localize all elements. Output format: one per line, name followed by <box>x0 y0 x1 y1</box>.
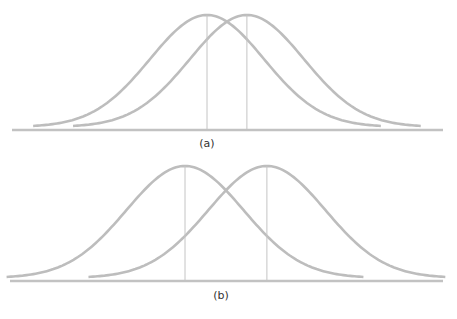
figure: (a) (b) <box>0 0 457 319</box>
panel-a: (a) <box>12 15 443 150</box>
panel-label-b: (b) <box>213 289 229 302</box>
panel-label-a: (a) <box>199 137 214 150</box>
panel-b: (b) <box>7 166 446 302</box>
